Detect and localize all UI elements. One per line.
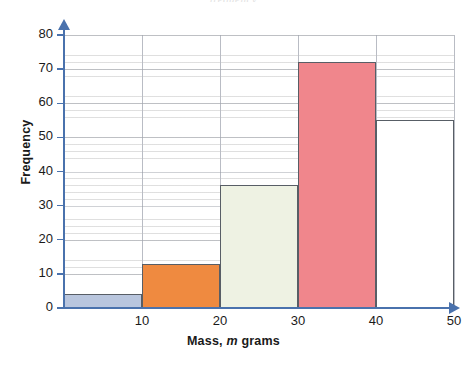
y-tick-mark xyxy=(57,68,64,69)
y-tick-mark xyxy=(57,171,64,172)
y-axis-title: Frequency xyxy=(19,82,33,222)
histogram-bar-10-20 xyxy=(142,264,220,308)
y-tick-mark xyxy=(57,205,64,206)
histogram-bar-40-50 xyxy=(376,120,454,308)
x-axis-line xyxy=(64,307,451,309)
x-tick-label: 10 xyxy=(127,313,157,328)
y-tick-mark xyxy=(57,137,64,138)
x-axis-title-pre: Mass, xyxy=(187,334,223,348)
x-axis-title: Mass, m grams xyxy=(0,334,467,348)
y-tick-label: 70 xyxy=(20,60,53,75)
y-tick-mark xyxy=(57,239,64,240)
y-tick-label: 20 xyxy=(20,231,53,246)
x-axis-title-post: grams xyxy=(241,334,280,348)
histogram-bar-20-30 xyxy=(220,185,298,308)
cropped-title-remnant: frequency xyxy=(0,0,467,2)
y-tick-mark xyxy=(57,103,64,104)
y-tick-label: 0 xyxy=(20,299,53,314)
x-tick-label: 30 xyxy=(283,313,313,328)
histogram-bar-0-10 xyxy=(64,294,142,308)
x-tick-label: 40 xyxy=(361,313,391,328)
y-axis-line xyxy=(63,28,65,309)
y-tick-mark xyxy=(57,307,64,308)
x-tick-label: 20 xyxy=(205,313,235,328)
y-axis-arrow-icon xyxy=(58,19,70,30)
bar-series xyxy=(64,35,454,308)
y-tick-label: 80 xyxy=(20,26,53,41)
histogram-figure: frequency 01020304050607080 1020304050 F… xyxy=(0,0,467,365)
x-tick-label: 50 xyxy=(439,313,467,328)
x-axis-title-variable: m xyxy=(226,334,237,348)
histogram-bar-30-40 xyxy=(298,62,376,308)
y-tick-label: 10 xyxy=(20,265,53,280)
plot-area xyxy=(64,35,454,308)
y-tick-mark xyxy=(57,34,64,35)
y-tick-mark xyxy=(57,273,64,274)
gridline-vertical xyxy=(454,35,455,308)
